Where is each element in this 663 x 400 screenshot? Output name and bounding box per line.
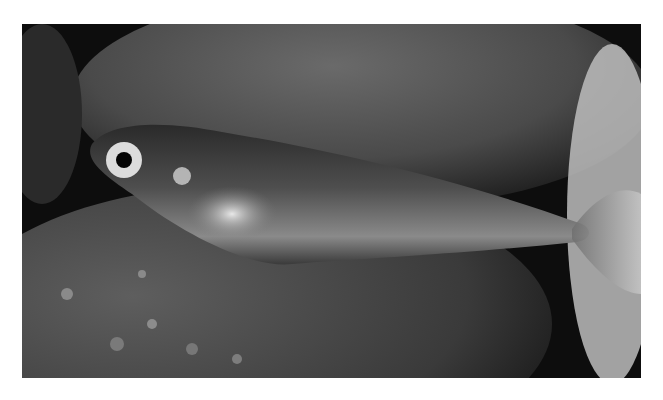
fish-belly-highlight (187, 186, 277, 242)
photo-illustration (22, 24, 641, 378)
fish-gill-highlight (173, 167, 191, 185)
fish-pupil (116, 152, 132, 168)
fish-photograph: Photograph of a small translucent fish w… (22, 24, 641, 378)
